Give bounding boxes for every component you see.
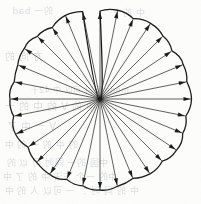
radial-arrow-head: [178, 112, 185, 116]
radial-arrow-head: [174, 128, 181, 133]
radial-arrow-shaft: [38, 37, 100, 99]
radial-arrow-head: [169, 144, 176, 150]
radial-arrow-head: [184, 97, 191, 101]
radial-arrow-head: [15, 113, 22, 117]
center-point: [98, 97, 102, 101]
radial-arrow-head: [114, 178, 118, 185]
radial-arrow-head: [29, 141, 36, 147]
radial-arrow-shaft: [37, 99, 100, 162]
radial-arrow-shaft: [100, 99, 162, 161]
radial-arrow-head: [50, 166, 56, 173]
radial-arrow-head: [67, 171, 72, 178]
radial-arrow-head: [11, 97, 18, 101]
radial-arrow-head: [114, 11, 118, 18]
radial-arrow-head: [82, 178, 86, 185]
radial-starburst-diagram: [0, 0, 201, 204]
radial-arrow-head: [66, 16, 71, 23]
radial-arrow-head: [25, 49, 32, 55]
radial-arrow-head: [175, 65, 182, 70]
radial-arrow-head: [98, 182, 102, 189]
radial-arrow-head: [128, 170, 133, 177]
radial-arrow-head: [98, 12, 102, 19]
radial-arrow-head: [128, 20, 133, 27]
radial-arrow-head: [164, 52, 171, 58]
radial-arrow-head: [53, 28, 59, 35]
radial-arrow-head: [82, 13, 86, 20]
radial-arrow-head: [15, 81, 22, 85]
radial-arrow-head: [16, 129, 23, 134]
figure-canvas: 的一 bad中 的 了方 向 的mode 同时 可以 中 42十中 的 V 的 …: [0, 0, 201, 204]
radial-arrow-head: [144, 166, 150, 173]
radial-arrow-head: [144, 24, 150, 31]
radial-arrow-shaft: [100, 37, 162, 99]
radial-arrow-head: [19, 65, 26, 70]
radial-arrow-head: [179, 81, 186, 85]
